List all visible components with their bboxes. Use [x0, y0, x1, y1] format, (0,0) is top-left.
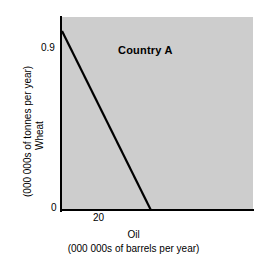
country-a-label: Country A: [118, 44, 173, 56]
y-axis-title: Wheat: [35, 121, 45, 150]
y-axis-tick-label-0-9: 0.9: [41, 43, 55, 53]
x-axis-tick-label-20: 20: [93, 213, 104, 223]
ppf-chart-figure: Country A 0.9 0 20 Wheat (000 000s of to…: [0, 0, 267, 268]
x-axis-units-label: (000 000s of barrels per year): [0, 243, 267, 254]
x-axis-title: Oil: [0, 229, 267, 240]
y-axis-units-label: (000 000s of tonnes per year): [23, 66, 33, 197]
y-axis-tick-label-0: 0: [51, 203, 57, 213]
